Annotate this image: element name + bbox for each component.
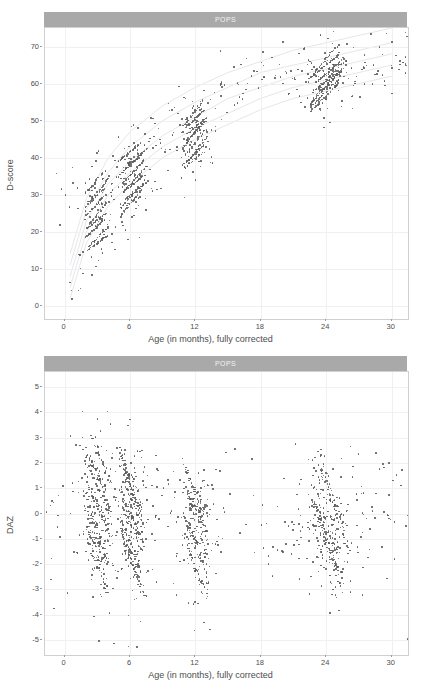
data-point xyxy=(127,425,129,427)
data-point xyxy=(335,510,337,512)
gridline-vertical xyxy=(65,372,66,655)
data-point xyxy=(128,146,130,148)
data-point xyxy=(351,542,353,544)
data-point xyxy=(104,204,106,206)
data-point xyxy=(203,90,205,92)
data-point xyxy=(193,603,195,605)
data-point xyxy=(336,84,338,86)
data-point xyxy=(94,477,96,479)
data-point xyxy=(140,154,142,156)
data-point xyxy=(326,516,328,518)
data-point xyxy=(108,201,110,203)
data-point xyxy=(205,118,207,120)
data-point xyxy=(134,455,136,457)
data-point xyxy=(112,543,114,545)
data-point xyxy=(127,506,129,508)
data-point xyxy=(99,543,101,545)
data-point xyxy=(140,621,142,623)
data-point xyxy=(129,162,131,164)
data-point xyxy=(339,552,341,554)
data-point xyxy=(201,591,203,593)
data-point xyxy=(89,211,91,213)
data-point xyxy=(221,86,223,88)
data-point xyxy=(383,467,385,469)
x-tick-label: 18 xyxy=(256,322,264,331)
data-point xyxy=(141,457,143,459)
data-point xyxy=(315,71,317,73)
gridline-vertical xyxy=(392,372,393,655)
data-point xyxy=(313,99,315,101)
data-point xyxy=(279,64,281,66)
data-point xyxy=(130,462,132,464)
x-tick-label: 30 xyxy=(386,322,394,331)
data-point xyxy=(82,251,84,253)
data-point xyxy=(105,170,107,172)
data-point xyxy=(200,536,202,538)
data-point xyxy=(100,540,102,542)
data-point xyxy=(85,182,87,184)
data-point xyxy=(115,570,117,572)
data-point xyxy=(85,447,87,449)
data-point xyxy=(139,192,141,194)
data-point xyxy=(191,551,193,553)
data-point xyxy=(137,523,139,525)
data-point xyxy=(206,553,208,555)
data-point xyxy=(328,542,330,544)
data-point xyxy=(90,203,92,205)
data-point xyxy=(323,70,325,72)
data-point xyxy=(98,216,100,218)
data-point xyxy=(146,595,148,597)
data-point xyxy=(100,210,102,212)
data-point xyxy=(300,515,302,517)
data-point xyxy=(274,77,276,79)
data-point xyxy=(341,523,343,525)
data-point xyxy=(95,469,97,471)
data-point xyxy=(225,452,227,454)
data-point xyxy=(95,196,97,198)
data-point xyxy=(106,509,108,511)
data-point xyxy=(200,500,202,502)
data-point xyxy=(137,153,139,155)
data-point xyxy=(199,543,201,545)
data-point xyxy=(51,558,53,560)
x-tick-mark xyxy=(260,319,261,321)
data-point xyxy=(127,152,129,154)
data-point xyxy=(99,549,101,551)
y-tick-label: 3 xyxy=(35,432,39,441)
x-tick-label: 30 xyxy=(386,658,394,667)
data-point xyxy=(155,455,157,457)
data-point xyxy=(195,179,197,181)
data-point xyxy=(407,638,409,640)
data-point xyxy=(283,478,285,480)
data-point xyxy=(327,60,329,62)
data-point xyxy=(78,492,80,494)
data-point xyxy=(107,518,109,520)
data-point xyxy=(85,210,87,212)
data-point xyxy=(103,491,105,493)
data-point xyxy=(335,530,337,532)
data-point xyxy=(78,254,80,256)
data-point xyxy=(202,133,204,135)
data-point xyxy=(315,102,317,104)
data-point xyxy=(338,574,340,576)
gridline-horizontal xyxy=(45,615,408,616)
data-point xyxy=(327,532,329,534)
data-point xyxy=(341,100,343,102)
data-point xyxy=(332,79,334,81)
data-point xyxy=(186,142,188,144)
data-point xyxy=(197,603,199,605)
y-tick-mark xyxy=(40,437,42,438)
data-point xyxy=(99,564,101,566)
data-point xyxy=(333,506,335,508)
data-point xyxy=(160,142,162,144)
data-point xyxy=(203,469,205,471)
data-point xyxy=(97,177,99,179)
data-point xyxy=(94,182,96,184)
data-point xyxy=(128,474,130,476)
data-point xyxy=(106,578,108,580)
data-point xyxy=(338,62,340,64)
data-point xyxy=(194,117,196,119)
data-point xyxy=(102,215,104,217)
data-point xyxy=(188,159,190,161)
data-point xyxy=(103,502,105,504)
